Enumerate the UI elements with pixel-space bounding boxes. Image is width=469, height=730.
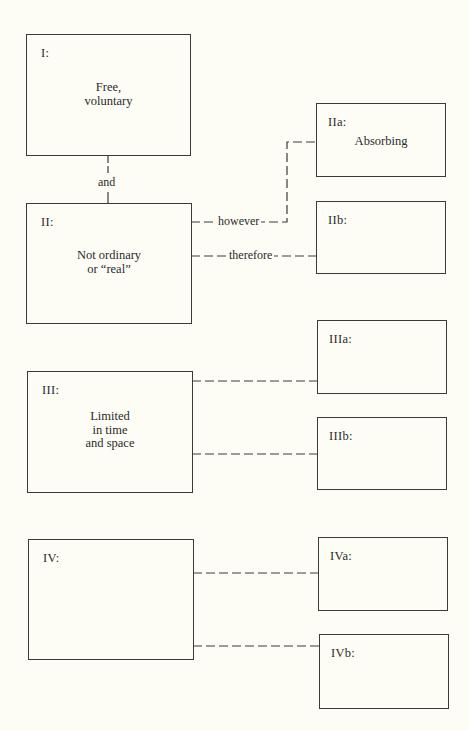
box-iia-text: Absorbing — [317, 135, 445, 149]
box-iv: IV: — [28, 539, 194, 660]
box-i-label: I: — [41, 46, 49, 61]
box-iib: IIb: — [316, 201, 446, 274]
connector-label-and: and — [96, 176, 117, 189]
box-i-text: Free, voluntary — [27, 81, 190, 108]
box-ii: II: Not ordinary or “real” — [26, 203, 192, 324]
box-ivb-label: IVb: — [331, 646, 355, 661]
connector-ii-iia — [191, 142, 316, 222]
box-iiia: IIIa: — [317, 320, 447, 394]
connector-label-however: however — [216, 215, 261, 228]
box-iiib: IIIb: — [317, 417, 447, 490]
box-iii: III: Limited in time and space — [27, 371, 193, 493]
connector-label-therefore: therefore — [227, 249, 274, 262]
box-iia: IIa: Absorbing — [316, 103, 446, 177]
box-iii-text: Limited in time and space — [28, 410, 192, 451]
box-ii-text: Not ordinary or “real” — [27, 249, 191, 276]
box-iv-label: IV: — [43, 551, 60, 566]
box-iii-label: III: — [42, 383, 59, 398]
box-iiia-label: IIIa: — [329, 332, 352, 347]
box-iib-label: IIb: — [328, 213, 347, 228]
box-iia-label: IIa: — [328, 115, 347, 130]
box-iva: IVa: — [318, 537, 448, 611]
box-ivb: IVb: — [319, 634, 449, 709]
box-iiib-label: IIIb: — [329, 429, 353, 444]
box-iva-label: IVa: — [330, 549, 352, 564]
box-ii-label: II: — [41, 215, 54, 230]
box-i: I: Free, voluntary — [26, 34, 191, 156]
